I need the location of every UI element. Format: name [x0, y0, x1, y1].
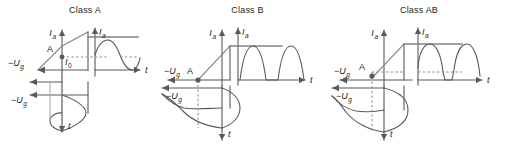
panel-class-b: Class B: [160, 0, 335, 151]
class-ab-output-waveform: [418, 44, 480, 80]
class-ab-transfer-vaxis-label: Ia: [371, 28, 378, 40]
class-a-time-down-label: t: [68, 121, 71, 131]
class-a-output-waveform: [95, 40, 140, 70]
class-ab-time-axis-label: t: [487, 75, 490, 85]
amplifier-classes-figure: Class A: [0, 0, 508, 151]
panel-class-a: Class A: [0, 0, 170, 151]
class-a-diagram: A Ia Ia I0 −Ug −Ug t t: [0, 0, 170, 151]
panel-class-ab: Class AB: [330, 0, 508, 151]
class-ab-grid-axis-label: −Ug: [334, 66, 350, 79]
class-ab-input-waveform-left-a: [332, 96, 384, 132]
class-a-transfer-vaxis-arrow: [59, 30, 65, 36]
class-a-drive-arrow: [30, 92, 37, 98]
class-a-drive-axis-label: −Ug: [11, 95, 27, 108]
class-a-input-waveform-right: [62, 95, 86, 131]
class-b-output-vaxis-label: Ia: [242, 27, 249, 39]
class-a-transfer-vaxis-label: Ia: [49, 28, 56, 40]
class-a-grid-arrow: [38, 67, 45, 74]
class-b-transfer-vaxis-label: Ia: [209, 28, 216, 40]
class-b-diagram: A Ia Ia −Ug −Ug t t: [160, 0, 335, 151]
class-a-time-down-arrow: [59, 126, 65, 132]
class-a-time-arrow: [134, 67, 140, 73]
class-b-bias-point-label: A: [187, 66, 193, 76]
class-a-drive-arrow-upper: [30, 79, 37, 85]
class-ab-time-down-arrow: [381, 134, 387, 140]
class-ab-time-down-label: t: [390, 129, 393, 139]
class-a-bias-point-marker: [60, 55, 65, 60]
class-b-transfer-vaxis-arrow: [219, 30, 225, 36]
class-b-output-waveform: [240, 46, 304, 80]
class-ab-grid-arrow: [340, 77, 347, 84]
class-a-transfer-curve: [38, 32, 88, 70]
class-b-bias-point-marker: [195, 77, 200, 82]
class-b-time-down-arrow: [219, 134, 225, 140]
class-b-grid-arrow: [168, 77, 175, 84]
class-b-time-down-label: t: [228, 129, 231, 139]
class-b-grid-axis-label: −Ug: [164, 66, 180, 79]
class-a-grid-axis-label: −Ug: [8, 58, 24, 71]
class-ab-diagram: A Ia Ia −Ug −Ug t t: [330, 0, 508, 151]
class-b-input-waveform-right: [222, 88, 240, 128]
class-ab-output-vaxis-label: Ia: [422, 27, 429, 39]
class-a-time-axis-label: t: [145, 65, 148, 75]
class-ab-bias-point-label: A: [359, 62, 365, 72]
class-a-bias-point-label: A: [47, 44, 53, 54]
class-ab-output-vaxis-arrow: [415, 28, 421, 34]
class-a-output-vaxis-label: Ia: [99, 27, 106, 39]
class-ab-time-arrow: [476, 77, 482, 83]
class-ab-transfer-vaxis-arrow: [381, 30, 387, 36]
class-b-output-vaxis-arrow: [235, 28, 241, 34]
class-b-drive-axis-label: −Ug: [166, 91, 182, 104]
class-a-output-vaxis-arrow: [92, 28, 98, 34]
class-a-quiescent-label: I0: [65, 57, 72, 69]
class-ab-bias-point-marker: [369, 73, 374, 78]
class-b-transfer-curve: [198, 46, 230, 80]
class-b-time-axis-label: t: [310, 75, 313, 85]
class-ab-transfer-curve: [372, 44, 404, 78]
